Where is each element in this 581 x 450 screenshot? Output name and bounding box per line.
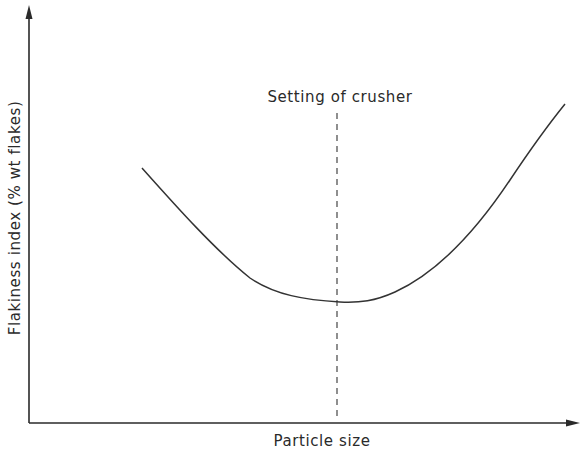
x-axis-label: Particle size (273, 432, 370, 450)
y-axis-label: Flakiness index (% wt flakes) (6, 101, 24, 336)
x-axis (29, 420, 580, 427)
y-axis-arrow-icon (26, 5, 33, 19)
flakiness-curve (142, 104, 565, 302)
flakiness-chart: Setting of crusher Particle size Flakine… (0, 0, 581, 450)
x-axis-arrow-icon (566, 420, 580, 427)
annotation-label: Setting of crusher (267, 88, 412, 106)
y-axis (26, 5, 33, 423)
